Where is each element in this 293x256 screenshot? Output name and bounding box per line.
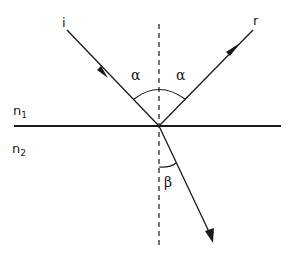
reflection-refraction-diagram <box>0 0 293 256</box>
reflected-arrow-icon <box>226 43 240 56</box>
medium2-label: n2 <box>12 142 26 155</box>
incident-ray <box>67 30 159 126</box>
medium2-sub: 2 <box>20 148 26 158</box>
incident-label: i <box>62 16 66 29</box>
medium1-sub: 1 <box>21 110 27 120</box>
medium1-base: n <box>13 103 21 118</box>
reflected-label: r <box>253 14 258 27</box>
beta-label: β <box>164 175 172 189</box>
medium1-label: n1 <box>13 104 27 117</box>
alpha-left-label: α <box>131 68 140 82</box>
medium2-base: n <box>12 141 20 156</box>
beta-angle-arc <box>159 163 176 167</box>
refracted-arrow-icon <box>205 228 214 243</box>
alpha-right-label: α <box>176 68 185 82</box>
